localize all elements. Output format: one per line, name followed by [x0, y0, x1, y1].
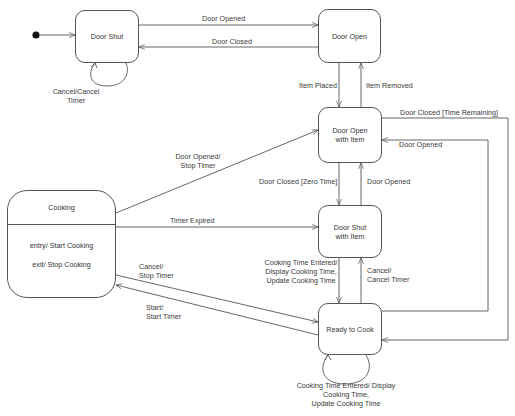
label-closed-time-remaining: Door Closed [Time Remaining]: [400, 108, 498, 117]
state-door-open-with-item: Door Open with Item: [318, 107, 382, 163]
entry-activity: entry/ Start Cooking: [8, 241, 115, 250]
state-door-shut: Door Shut: [75, 10, 139, 63]
label-closed-zero-time: Door Closed [Zero Time]: [259, 177, 337, 186]
label-line: Cancel/: [367, 266, 409, 275]
label-line: Update Cooking Time: [262, 276, 340, 285]
label-line: Start Timer: [146, 312, 181, 321]
state-label-line1: Door Shut: [334, 223, 366, 232]
state-label: Door Shut: [91, 32, 123, 41]
label-line: Cooking Time,: [296, 390, 396, 399]
label-door-opened: Door Opened: [202, 14, 245, 23]
initial-state-dot: [32, 31, 39, 38]
label-line: Cooking Time Entered/ Display: [296, 381, 396, 390]
label-door-opened-right: Door Opened: [399, 140, 442, 149]
label-line: Cancel/: [139, 262, 174, 271]
state-label: Door Open: [332, 32, 367, 41]
label-opened-stop-timer: Door Opened/ Stop Timer: [168, 152, 228, 170]
label-cancel-stop-timer: Cancel/ Stop Timer: [139, 262, 174, 280]
label-line: Cancel Timer: [367, 275, 409, 284]
state-label-line2: with Item: [336, 135, 365, 144]
label-line: Stop Timer: [168, 161, 228, 170]
label-door-closed: Door Closed: [212, 37, 252, 46]
label-line: Update Cooking Time: [296, 399, 396, 408]
label-line: Door Opened/: [168, 152, 228, 161]
label-timer-expired: Timer Expired: [170, 216, 214, 225]
label-item-placed: Item Placed: [299, 81, 337, 90]
state-cooking: Cooking entry/ Start Cooking exit/ Stop …: [7, 190, 116, 298]
label-line: Timer: [52, 96, 100, 105]
transition-self-cooking-time: [323, 355, 370, 384]
state-label-line1: Door Open: [332, 126, 367, 135]
label-self-cooking-time: Cooking Time Entered/ Display Cooking Ti…: [296, 381, 396, 408]
label-cooking-time-entered: Cooking Time Entered/ Display Cooking Ti…: [262, 258, 340, 285]
state-door-shut-with-item: Door Shut with Item: [318, 205, 382, 258]
label-door-opened-mid: Door Opened: [367, 177, 410, 186]
label-item-removed: Item Removed: [366, 81, 413, 90]
state-label: Cooking: [8, 191, 115, 225]
transition-door-opened-right: [382, 140, 488, 311]
label-start-timer: Start/ Start Timer: [146, 303, 181, 321]
state-label-line2: with Item: [336, 232, 365, 241]
label-line: Cancel/Cancel: [52, 87, 100, 96]
label-line: Stop Timer: [139, 271, 174, 280]
label-line: Cooking Time Entered/: [262, 258, 340, 267]
label-cancel-cancel-timer: Cancel/Cancel Timer: [52, 87, 100, 105]
state-ready-to-cook: Ready to Cook: [318, 303, 382, 355]
transition-closed-time-remaining: [382, 118, 508, 340]
state-door-open: Door Open: [318, 9, 381, 63]
label-line: Start/: [146, 303, 181, 312]
label-cancel-cancel-timer-2: Cancel/ Cancel Timer: [367, 266, 409, 284]
label-line: Display Cooking Time,: [262, 267, 340, 276]
exit-activity: exit/ Stop Cooking: [8, 260, 115, 269]
transition-opened-stop-timer: [116, 130, 318, 213]
state-label: Ready to Cook: [326, 325, 374, 334]
